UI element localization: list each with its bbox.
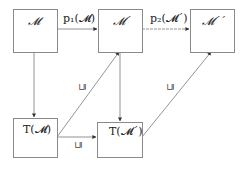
node-t-m-prime: T(𝓜´)	[97, 122, 143, 158]
node-m-double-prime-label: 𝓜´´	[202, 15, 225, 28]
edge-label-p2: p₂(𝓜´)	[150, 12, 188, 25]
node-t-m-label: T(𝓜)	[23, 123, 51, 136]
arrow-tm1-to-m2	[142, 52, 211, 137]
node-m: 𝓜	[13, 9, 58, 53]
edge-label-p1: p₁(𝓜)	[63, 12, 95, 25]
sqsubseteq-symbol-tm-tm1: ⊑	[73, 141, 83, 149]
sqsubseteq-symbol-tm-m1: ⊑	[77, 83, 87, 91]
node-m-label: 𝓜	[28, 15, 40, 28]
node-t-m-prime-label: T(𝓜´)	[109, 125, 142, 138]
node-t-m: T(𝓜)	[13, 118, 58, 158]
node-m-prime-label: 𝓜´	[113, 15, 131, 28]
node-m-double-prime: 𝓜´´	[190, 9, 235, 53]
node-m-prime: 𝓜´	[98, 9, 143, 53]
diagram-canvas: 𝓜 𝓜´ 𝓜´´ T(𝓜) T(𝓜´) p₁(𝓜) p₂(𝓜´) ⊑ ⊑ ⊑	[0, 0, 245, 170]
sqsubseteq-symbol-tm1-m2: ⊑	[165, 83, 175, 91]
